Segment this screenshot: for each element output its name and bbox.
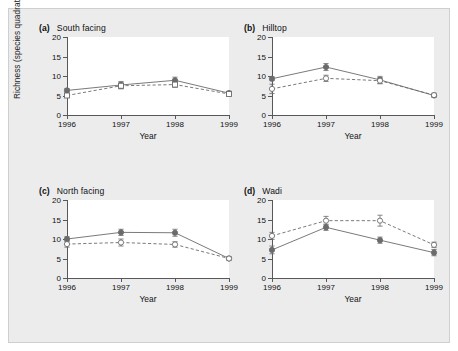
x-axis-tick-label: 1997: [112, 283, 130, 292]
y-axis-tick-label: 0: [57, 274, 61, 283]
x-axis-tick-label: 1998: [371, 283, 389, 292]
data-point-open-circle: [377, 218, 382, 223]
data-point-open-circle: [431, 242, 436, 247]
data-point-open-circle: [323, 218, 328, 223]
y-axis-tick-label: 0: [262, 274, 266, 283]
series-line-filled-circle-solid: [67, 232, 229, 258]
y-axis-tick-label: 15: [52, 52, 61, 61]
data-point-open-circle: [269, 233, 274, 238]
x-axis-tick-label: 1999: [425, 120, 443, 129]
y-axis-tick-label: 10: [257, 72, 266, 81]
panel-name-c: North facing: [57, 186, 105, 196]
x-axis-tick-label: 1999: [220, 120, 238, 129]
series-line-open-circle-dashed: [67, 243, 229, 259]
x-axis-label: Year: [272, 294, 434, 304]
x-axis-tick-label: 1997: [317, 283, 335, 292]
y-axis-tick-label: 20: [257, 33, 266, 42]
series-line-open-circle-dashed: [272, 78, 434, 95]
x-axis-tick-label: 1998: [166, 120, 184, 129]
y-axis-tick-label: 10: [257, 235, 266, 244]
y-axis-tick-label: 15: [257, 215, 266, 224]
data-point-filled-circle: [172, 230, 177, 235]
data-point-filled-circle: [269, 76, 274, 81]
data-series-layer: [67, 37, 243, 121]
data-point-open-square: [119, 83, 124, 88]
panel-title-c: (c)North facing: [39, 186, 104, 196]
data-point-open-circle: [377, 78, 382, 83]
series-line-open-circle-dashed: [272, 221, 434, 245]
x-axis-tick-label: 1999: [425, 283, 443, 292]
y-axis-tick-label: 10: [52, 235, 61, 244]
panel-name-a: South facing: [57, 23, 106, 33]
y-axis-label-text: Richness (species quadrat: [12, 0, 22, 99]
x-axis-tick-label: 1996: [263, 120, 281, 129]
data-point-open-circle: [269, 86, 274, 91]
y-axis-tick-label: 0: [57, 111, 61, 120]
data-point-open-square: [65, 93, 70, 98]
data-point-filled-circle: [64, 88, 69, 93]
data-point-filled-circle: [269, 247, 274, 252]
y-axis-tick-label: 5: [262, 91, 266, 100]
data-point-open-circle: [118, 240, 123, 245]
panel-letter-b: (b): [244, 23, 255, 33]
y-axis-tick-label: 15: [257, 52, 266, 61]
series-line-filled-circle-solid: [272, 227, 434, 252]
data-point-open-circle: [172, 242, 177, 247]
x-axis-label: Year: [272, 131, 434, 141]
data-series-layer: [272, 37, 448, 121]
panel-name-b: Hilltop: [262, 23, 287, 33]
series-line-open-square-dashed: [67, 85, 229, 96]
y-axis-tick-label: 0: [262, 111, 266, 120]
y-axis-tick-label: 20: [52, 196, 61, 205]
panel-title-d: (d)Wadi: [244, 186, 282, 196]
data-point-filled-circle: [377, 238, 382, 243]
x-axis-tick-label: 1998: [371, 120, 389, 129]
panel-name-d: Wadi: [262, 186, 282, 196]
y-axis-tick-label: 5: [57, 91, 61, 100]
data-point-open-circle: [431, 93, 436, 98]
x-axis-label: Year: [67, 131, 229, 141]
panel-letter-a: (a): [39, 23, 50, 33]
x-axis-tick-label: 1996: [58, 283, 76, 292]
y-axis-tick-label: 15: [52, 215, 61, 224]
data-point-filled-circle: [323, 64, 328, 69]
panel-title-a: (a)South facing: [39, 23, 106, 33]
x-axis-tick-label: 1999: [220, 283, 238, 292]
y-axis-tick-label: 5: [262, 254, 266, 263]
y-axis-tick-label: 20: [257, 196, 266, 205]
y-axis-tick-label: 5: [57, 254, 61, 263]
x-axis-label: Year: [67, 294, 229, 304]
data-series-layer: [272, 200, 448, 284]
y-axis-tick-label: 10: [52, 72, 61, 81]
x-axis-tick-label: 1997: [112, 120, 130, 129]
data-point-open-square: [173, 82, 178, 87]
data-point-open-circle: [323, 76, 328, 81]
x-axis-tick-label: 1997: [317, 120, 335, 129]
data-point-open-circle: [226, 256, 231, 261]
panel-letter-d: (d): [244, 186, 255, 196]
data-series-layer: [67, 200, 243, 284]
y-axis-tick-label: 20: [52, 33, 61, 42]
x-axis-tick-label: 1996: [263, 283, 281, 292]
figure-panel-container: Richness (species quadrat−1) (a)South fa…: [8, 8, 450, 343]
y-axis-label: Richness (species quadrat−1): [11, 0, 25, 99]
x-axis-tick-label: 1996: [58, 120, 76, 129]
panel-letter-c: (c): [39, 186, 50, 196]
data-point-open-square: [227, 91, 232, 96]
data-point-filled-circle: [118, 230, 123, 235]
series-line-filled-circle-solid: [272, 67, 434, 95]
data-point-filled-circle: [323, 225, 328, 230]
panel-title-b: (b)Hilltop: [244, 23, 287, 33]
data-point-filled-circle: [431, 250, 436, 255]
data-point-open-circle: [64, 241, 69, 246]
x-axis-tick-label: 1998: [166, 283, 184, 292]
